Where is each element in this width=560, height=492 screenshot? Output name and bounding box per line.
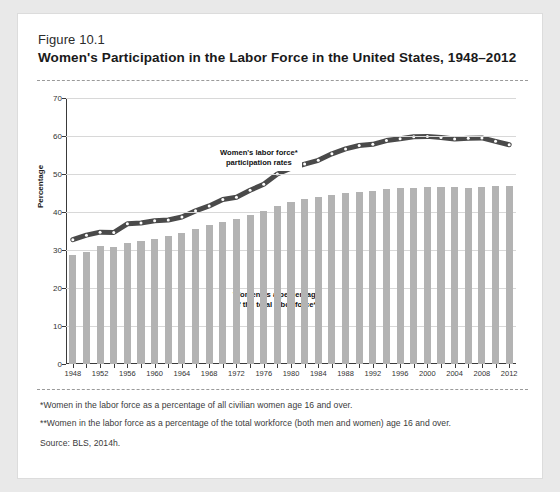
x-axis-tick-mark — [196, 364, 197, 368]
x-axis-tick-mark — [468, 364, 469, 368]
bar — [97, 246, 104, 364]
x-axis-tick-mark — [332, 364, 333, 368]
y-axis-tick-mark — [62, 288, 66, 289]
bar — [110, 247, 117, 364]
x-axis-tick-label: 2008 — [474, 369, 491, 378]
x-axis-tick-label: 1972 — [228, 369, 245, 378]
x-axis-tick-mark — [318, 364, 319, 368]
x-axis-tick-mark — [386, 364, 387, 368]
x-axis-tick-label: 1984 — [310, 369, 327, 378]
x-axis-tick-mark — [264, 364, 265, 368]
y-axis-tick-mark — [62, 136, 66, 137]
x-axis-tick-mark — [359, 364, 360, 368]
figure-card: Figure 10.1 Women's Participation in the… — [18, 14, 542, 478]
grid-line — [66, 98, 516, 99]
y-axis-tick-mark — [62, 250, 66, 251]
x-axis-tick-mark — [168, 364, 169, 368]
y-axis-tick-label: 70 — [53, 94, 62, 103]
y-axis-tick-label: 40 — [53, 208, 62, 217]
x-axis-tick-mark — [455, 364, 456, 368]
x-axis-tick-mark — [482, 364, 483, 368]
x-axis-tick-mark — [209, 364, 210, 368]
y-axis-tick-label: 50 — [53, 170, 62, 179]
line-marker — [467, 137, 470, 140]
bar — [274, 206, 281, 364]
line-marker — [494, 140, 497, 143]
grid-line — [66, 174, 516, 175]
annotation-participation-rates: Women's labor force*participation rates — [216, 146, 302, 171]
line-marker — [262, 183, 265, 186]
bar — [410, 188, 417, 364]
divider-bottom — [37, 389, 528, 390]
x-axis-tick-label: 2004 — [446, 369, 463, 378]
bar — [233, 219, 240, 364]
bar — [83, 252, 90, 364]
y-axis-tick-mark — [62, 174, 66, 175]
x-axis-tick-label: 1988 — [337, 369, 354, 378]
x-axis-tick-label: 1992 — [364, 369, 381, 378]
bar — [465, 188, 472, 364]
line-marker — [99, 231, 102, 234]
x-axis-tick-mark — [223, 364, 224, 368]
x-axis-tick-label: 2012 — [501, 369, 518, 378]
x-axis-tick-mark — [141, 364, 142, 368]
bar — [219, 222, 226, 364]
x-axis-tick-label: 1960 — [146, 369, 163, 378]
line-marker — [235, 196, 238, 199]
line-marker — [385, 139, 388, 142]
y-axis-label: Percentage — [36, 165, 45, 208]
x-axis-tick-label: 1956 — [119, 369, 136, 378]
x-axis-tick-mark — [427, 364, 428, 368]
x-axis-tick-mark — [414, 364, 415, 368]
bar — [192, 229, 199, 364]
line-marker — [344, 147, 347, 150]
x-axis-tick-mark — [155, 364, 156, 368]
line-marker — [371, 143, 374, 146]
y-axis-tick-mark — [62, 364, 66, 365]
bar — [137, 241, 144, 364]
line-marker — [180, 215, 183, 218]
bar — [451, 187, 458, 364]
x-axis-tick-label: 1948 — [64, 369, 81, 378]
line-marker — [167, 218, 170, 221]
y-axis-tick-mark — [62, 326, 66, 327]
x-axis-tick-mark — [277, 364, 278, 368]
y-axis-tick-label: 30 — [53, 246, 62, 255]
bar — [124, 243, 131, 364]
y-axis-tick-mark — [62, 212, 66, 213]
x-axis-tick-mark — [114, 364, 115, 368]
line-marker — [317, 159, 320, 162]
line-marker — [358, 144, 361, 147]
footnote-source: Source: BLS, 2014h. — [40, 438, 526, 448]
divider-top — [37, 80, 528, 81]
bar — [328, 195, 335, 364]
x-axis-tick-mark — [305, 364, 306, 368]
x-axis-tick-mark — [346, 364, 347, 368]
x-axis-tick-mark — [182, 364, 183, 368]
x-axis-tick-mark — [127, 364, 128, 368]
x-axis-tick-label: 2000 — [419, 369, 436, 378]
line-marker — [399, 137, 402, 140]
bar — [424, 187, 431, 364]
chart-container: Percentage Women's labor force*participa… — [38, 90, 530, 386]
x-axis-tick-label: 1996 — [392, 369, 409, 378]
bar — [151, 239, 158, 364]
line-marker — [112, 231, 115, 234]
line-marker — [221, 198, 224, 201]
bar — [478, 187, 485, 364]
bar — [287, 202, 294, 364]
x-axis-tick-mark — [496, 364, 497, 368]
line-marker — [153, 219, 156, 222]
figure-title: Women's Participation in the Labor Force… — [38, 50, 516, 65]
bar — [206, 225, 213, 364]
line-marker — [208, 204, 211, 207]
x-axis-tick-mark — [73, 364, 74, 368]
x-axis-tick-mark — [250, 364, 251, 368]
bar — [315, 197, 322, 364]
bar — [342, 193, 349, 364]
bar — [383, 189, 390, 364]
x-axis-tick-mark — [509, 364, 510, 368]
x-axis-tick-mark — [400, 364, 401, 368]
line-marker — [140, 222, 143, 225]
x-axis-tick-label: 1980 — [283, 369, 300, 378]
